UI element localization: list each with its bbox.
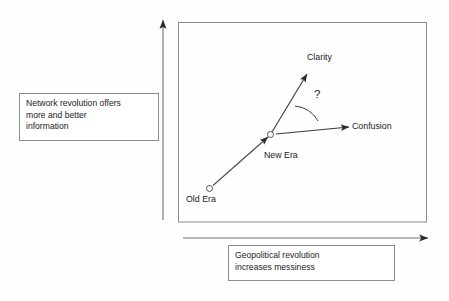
diagram-canvas: Clarity Confusion New Era Old Era ? Netw… (0, 0, 449, 301)
node-marker-new-era (268, 132, 274, 138)
new-era-to-clarity-arrow (272, 74, 307, 132)
label-new-era: New Era (264, 150, 298, 160)
node-marker-old-era (207, 186, 213, 192)
new-era-to-confusion-arrow (276, 127, 349, 134)
label-confusion: Confusion (352, 121, 392, 131)
uncertainty-arc (295, 106, 318, 121)
label-clarity: Clarity (307, 52, 332, 62)
old-to-new-era-arrow (213, 137, 268, 186)
uncertainty-question-mark: ? (314, 88, 320, 100)
x-axis-callout-box: Geopolitical revolution increases messin… (228, 245, 395, 281)
y-axis-callout-box: Network revolution offers more and bette… (19, 93, 159, 141)
label-old-era: Old Era (186, 194, 216, 204)
